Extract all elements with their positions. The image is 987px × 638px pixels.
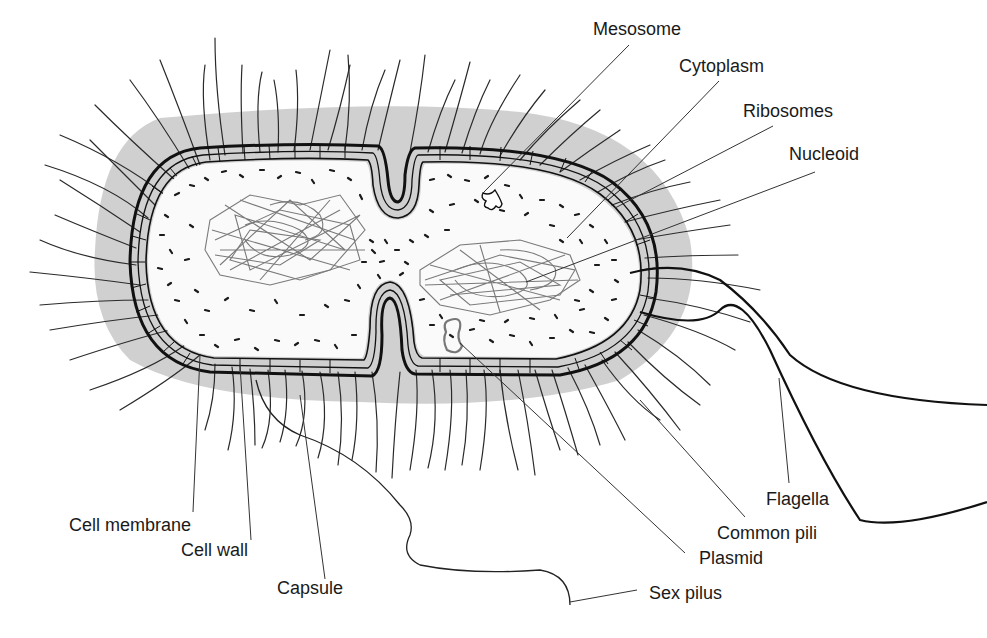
label-nucleoid: Nucleoid [789,145,859,163]
label-common-pili: Common pili [717,524,817,542]
label-plasmid: Plasmid [699,549,763,567]
leader-line-flagella [779,378,789,483]
label-capsule: Capsule [277,579,343,597]
label-cytoplasm: Cytoplasm [679,57,764,75]
label-ribosomes: Ribosomes [743,102,833,120]
leader-line-sex-pilus [570,590,637,602]
label-mesosome: Mesosome [593,20,681,38]
label-cell-wall: Cell wall [181,541,248,559]
sex-pilus [256,380,570,605]
leader-line-common-pili [640,400,745,517]
bacterial-cell-diagram [0,0,987,638]
label-flagella: Flagella [766,490,829,508]
label-cell-membrane: Cell membrane [69,516,191,534]
leader-line-capsule [300,395,325,579]
label-sex-pilus: Sex pilus [649,584,722,602]
